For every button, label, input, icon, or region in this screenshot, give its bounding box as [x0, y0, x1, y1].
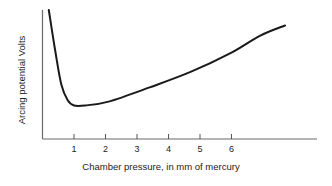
- x-tick-label: 1: [71, 144, 76, 154]
- x-tick-labels: 123456: [71, 144, 234, 154]
- x-tick-label: 6: [229, 144, 234, 154]
- x-tick-label: 4: [166, 144, 171, 154]
- chart: 123456 Chamber pressure, in mm of mercur…: [0, 0, 332, 186]
- y-axis-label: Arcing potential Volts: [16, 35, 27, 124]
- x-ticks: [74, 134, 232, 139]
- x-tick-label: 3: [134, 144, 139, 154]
- x-tick-label: 2: [103, 144, 108, 154]
- series-line-arcing-potential: [49, 10, 285, 106]
- x-axis-label: Chamber pressure, in mm of mercury: [82, 161, 240, 172]
- x-tick-label: 5: [197, 144, 202, 154]
